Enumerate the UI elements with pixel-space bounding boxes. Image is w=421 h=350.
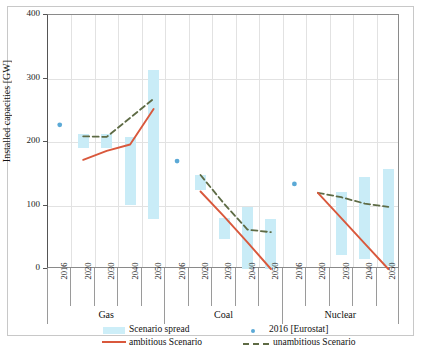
legend-label-ambitious: ambitious Scenario xyxy=(129,337,202,347)
group-label-gas: Gas xyxy=(47,306,164,324)
x-tick-cell: 2020 xyxy=(70,268,93,306)
group-label-nuclear: Nuclear xyxy=(282,306,399,324)
x-tick-label: 2030 xyxy=(341,263,351,280)
x-tick-cell: 2050 xyxy=(376,268,399,306)
ambitious-scenario-line xyxy=(318,193,388,269)
y-tick-label: 200 xyxy=(6,136,40,145)
x-tick-cell: 2040 xyxy=(117,268,140,306)
ambitious-scenario-line xyxy=(201,192,271,270)
legend-swatch-eurostat xyxy=(251,329,255,333)
x-tick-cell: 2016 xyxy=(47,268,70,306)
legend-label-unambitious: unambitious Scenario xyxy=(273,337,356,347)
x-tick-cell: 2030 xyxy=(211,268,234,306)
x-tick-label: 2016 xyxy=(177,263,187,280)
x-axis-group-labels: GasCoalNuclear xyxy=(47,306,399,324)
x-tick-cell: 2040 xyxy=(235,268,258,306)
x-tick-cell: 2016 xyxy=(164,268,187,306)
x-tick-cell: 2016 xyxy=(282,268,305,306)
legend-swatch-spread xyxy=(103,327,125,334)
x-tick-label: 2050 xyxy=(270,263,280,280)
x-tick-cell: 2050 xyxy=(258,268,281,306)
plot-area xyxy=(47,14,399,268)
group-label-coal: Coal xyxy=(164,306,281,324)
x-tick-label: 2020 xyxy=(317,263,327,280)
y-tick-label: 300 xyxy=(6,73,40,82)
x-tick-cell: 2030 xyxy=(94,268,117,306)
x-tick-label: 2040 xyxy=(364,263,374,280)
eurostat-2016-point xyxy=(57,122,62,127)
x-tick-cell: 2020 xyxy=(188,268,211,306)
x-tick-cell: 2050 xyxy=(141,268,164,306)
y-tick-label: 0 xyxy=(6,263,40,272)
x-tick-cell: 2040 xyxy=(352,268,375,306)
x-tick-label: 2030 xyxy=(223,263,233,280)
x-tick-label: 2040 xyxy=(247,263,257,280)
y-tick-label: 100 xyxy=(6,200,40,209)
chart-figure: Installed capacities [GW] 0100200300400 … xyxy=(0,0,421,350)
x-tick-label: 2020 xyxy=(200,263,210,280)
x-tick-label: 2030 xyxy=(106,263,116,280)
unambitious-scenario-line xyxy=(83,99,153,137)
x-tick-label: 2016 xyxy=(294,263,304,280)
legend-swatch-ambitious xyxy=(102,341,126,343)
chart-legend: Scenario spread 2016 [Eurostat] ambitiou… xyxy=(47,324,399,350)
x-tick-label: 2016 xyxy=(59,263,69,280)
x-tick-label: 2040 xyxy=(130,263,140,280)
legend-swatch-unambitious xyxy=(243,343,269,345)
scenario-lines xyxy=(48,15,400,269)
eurostat-2016-point xyxy=(175,159,180,164)
x-tick-label: 2050 xyxy=(153,263,163,280)
x-tick-cell: 2020 xyxy=(305,268,328,306)
x-axis-year-labels: 2016202020302040205020162020203020402050… xyxy=(47,268,399,306)
y-tick-label: 400 xyxy=(6,9,40,18)
legend-label-spread: Scenario spread xyxy=(129,324,189,334)
legend-label-eurostat: 2016 [Eurostat] xyxy=(269,324,328,334)
x-tick-label: 2020 xyxy=(83,263,93,280)
x-tick-label: 2050 xyxy=(387,263,397,280)
ambitious-scenario-line xyxy=(83,109,153,160)
eurostat-2016-point xyxy=(292,182,297,187)
x-tick-cell: 2030 xyxy=(329,268,352,306)
